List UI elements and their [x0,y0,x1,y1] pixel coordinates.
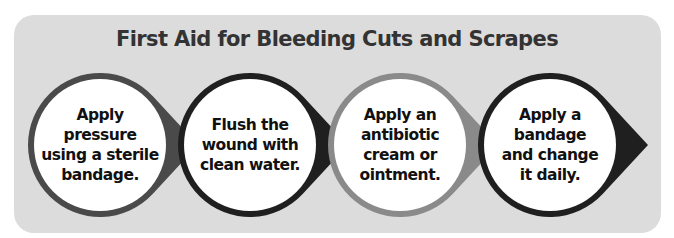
step-text-line: Flush the [191,115,309,135]
step-text-line: it daily. [491,165,609,185]
step-text: Apply abandageand changeit daily. [491,105,609,185]
step-text-line: pressure [41,125,159,145]
step-text: Apply anantibioticcream orointment. [341,105,459,185]
step-text-line: Apply [41,105,159,125]
step-text-line: wound with [191,135,309,155]
step-text-line: antibiotic [341,125,459,145]
step-text-line: clean water. [191,155,309,175]
step-text-line: and change [491,145,609,165]
step-text-line: using a sterile [41,145,159,165]
step-text-line: cream or [341,145,459,165]
step-text-line: bandage [491,125,609,145]
step-text-line: Apply an [341,105,459,125]
step-text: Flush thewound withclean water. [191,115,309,175]
step-text-line: ointment. [341,165,459,185]
step-text-line: Apply a [491,105,609,125]
step-text-line: bandage. [41,165,159,185]
step-text: Applypressureusing a sterilebandage. [41,105,159,185]
